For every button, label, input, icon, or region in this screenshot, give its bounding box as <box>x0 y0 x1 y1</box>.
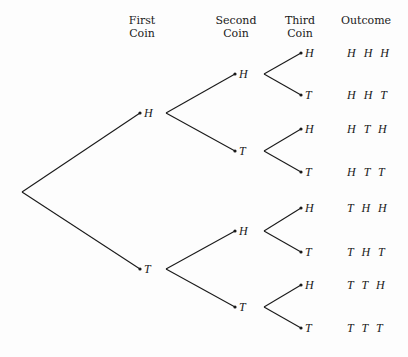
branch-first-to-second-3 <box>166 269 235 307</box>
outcome-4: H T T <box>347 166 385 178</box>
header-third-line1: Third <box>285 14 315 27</box>
third-coin-label: H <box>305 279 314 291</box>
branch-first-to-second-0 <box>166 74 235 113</box>
outcome-7: T T H <box>347 279 385 291</box>
outcome-5: T H H <box>347 202 387 214</box>
header-second-coin: Second Coin <box>216 14 257 40</box>
node-dot-second-2 <box>233 229 236 232</box>
header-third-line2: Coin <box>285 27 315 40</box>
outcome-3: H T H <box>347 123 387 135</box>
branch-second-to-third-7 <box>264 307 301 328</box>
third-coin-label: T <box>305 89 312 101</box>
outcome-6: T H T <box>347 246 385 258</box>
second-coin-label: T <box>239 145 246 157</box>
third-coin-label: H <box>305 202 314 214</box>
branch-second-to-third-5 <box>264 231 301 252</box>
second-coin-label: H <box>239 225 248 237</box>
branch-first-to-second-1 <box>166 113 235 151</box>
header-outcome: Outcome <box>341 14 391 27</box>
node-dot-second-1 <box>233 149 236 152</box>
node-dot-third-4 <box>299 206 302 209</box>
third-coin-label: T <box>305 322 312 334</box>
branch-second-to-third-1 <box>264 74 301 95</box>
third-coin-label: T <box>305 246 312 258</box>
node-dot-second-3 <box>233 305 236 308</box>
node-dot-third-3 <box>299 170 302 173</box>
branch-second-to-third-3 <box>264 151 301 172</box>
header-third-coin: Third Coin <box>285 14 315 40</box>
node-dot-third-2 <box>299 127 302 130</box>
node-dot-third-1 <box>299 93 302 96</box>
branch-second-to-third-0 <box>264 53 301 74</box>
node-dot-first-1 <box>138 267 141 270</box>
node-dot-third-6 <box>299 283 302 286</box>
branch-second-to-third-6 <box>264 285 301 307</box>
header-first-coin: First Coin <box>129 14 155 40</box>
coin-toss-tree-diagram: First Coin Second Coin Third Coin Outcom… <box>0 0 408 357</box>
branch-root-to-first-0 <box>22 113 140 192</box>
outcome-1: H H H <box>347 47 390 59</box>
node-dot-third-0 <box>299 51 302 54</box>
node-dot-third-7 <box>299 326 302 329</box>
header-first-line2: Coin <box>129 27 155 40</box>
branch-root-to-first-1 <box>22 192 140 269</box>
third-coin-label: H <box>305 47 314 59</box>
first-coin-h-label: H <box>144 107 153 119</box>
second-coin-label: H <box>239 68 248 80</box>
header-outcome-label: Outcome <box>341 14 391 27</box>
header-second-line2: Coin <box>216 27 257 40</box>
third-coin-label: H <box>305 123 314 135</box>
third-coin-label: T <box>305 166 312 178</box>
branch-first-to-second-2 <box>166 231 235 269</box>
branch-second-to-third-4 <box>264 208 301 231</box>
first-coin-t-label: T <box>144 263 151 275</box>
header-first-line1: First <box>129 14 155 27</box>
second-coin-label: T <box>239 301 246 313</box>
outcome-8: T T T <box>347 322 383 334</box>
node-dot-first-0 <box>138 111 141 114</box>
header-second-line1: Second <box>216 14 257 27</box>
outcome-2: H H T <box>347 89 388 101</box>
node-dot-third-5 <box>299 250 302 253</box>
node-dot-second-0 <box>233 72 236 75</box>
branch-second-to-third-2 <box>264 129 301 151</box>
